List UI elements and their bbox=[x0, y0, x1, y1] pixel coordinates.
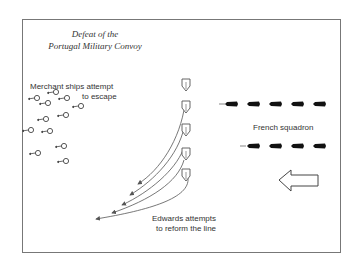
merchant-ships bbox=[22, 89, 84, 163]
british-line bbox=[182, 79, 190, 181]
hollow-arrow-left-icon bbox=[279, 170, 318, 191]
french-squadron bbox=[219, 102, 326, 149]
edwards-courses bbox=[96, 104, 188, 219]
diagram-graphics bbox=[0, 0, 357, 265]
